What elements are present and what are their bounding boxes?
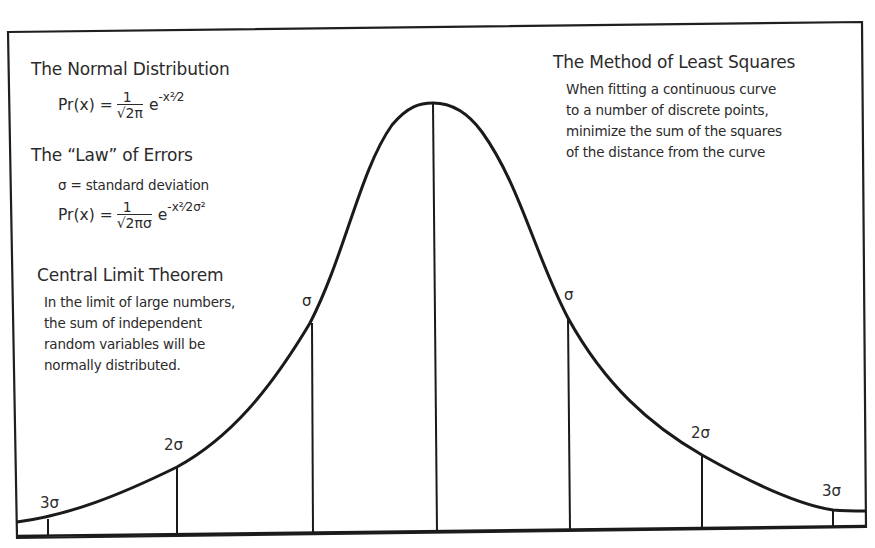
law-of-errors-formula: Pr(x) = 1 √2πσ e -x²⁄2σ² (58, 200, 206, 230)
text-line: the sum of independent (44, 313, 235, 334)
normal-distribution-title: The Normal Distribution (31, 59, 230, 79)
formula-fraction: 1 √2π (117, 90, 143, 120)
marker-line-left-sigma (312, 323, 313, 534)
label-left-3sigma: 3σ (40, 494, 59, 512)
sigma-definition: σ = standard deviation (58, 175, 209, 196)
formula-lhs: Pr(x) = (58, 206, 113, 224)
least-squares-title: The Method of Least Squares (553, 52, 795, 72)
fraction-numerator: 1 (123, 200, 132, 214)
text-line: of the distance from the curve (566, 142, 782, 163)
normal-distribution-formula: Pr(x) = 1 √2π e -x²⁄2 (58, 90, 184, 120)
fraction-numerator: 1 (123, 90, 132, 104)
text-line: minimize the sum of the squares (566, 121, 782, 142)
fraction-denominator: √2πσ (117, 214, 152, 230)
text-line: normally distributed. (44, 355, 235, 376)
exp-base: e (158, 206, 168, 224)
label-right-sigma: σ (564, 286, 574, 304)
text-line: In the limit of large numbers, (44, 292, 235, 313)
text-line: When fitting a continuous curve (566, 79, 782, 100)
formula-fraction: 1 √2πσ (117, 200, 152, 230)
law-of-errors-title: The “Law” of Errors (31, 145, 193, 165)
label-left-sigma: σ (302, 292, 312, 310)
exp-power: -x²⁄2σ² (167, 200, 205, 214)
central-limit-text: In the limit of large numbers, the sum o… (44, 292, 235, 376)
label-right-2sigma: 2σ (691, 424, 710, 442)
text-line: to a number of discrete points, (566, 100, 782, 121)
fraction-denominator: √2π (117, 104, 143, 120)
exp-power: -x²⁄2 (158, 90, 184, 104)
least-squares-text: When fitting a continuous curve to a num… (566, 79, 782, 163)
label-left-2sigma: 2σ (164, 436, 183, 454)
label-right-3sigma: 3σ (822, 482, 841, 500)
formula-lhs: Pr(x) = (58, 96, 113, 114)
text-line: random variables will be (44, 334, 235, 355)
central-limit-title: Central Limit Theorem (37, 265, 223, 285)
exp-base: e (149, 96, 159, 114)
